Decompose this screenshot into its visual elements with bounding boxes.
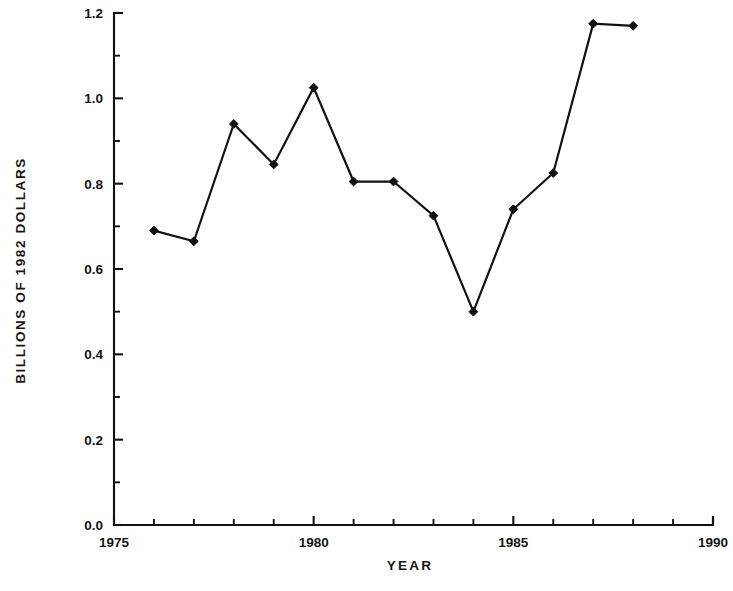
x-axis: 1975198019851990	[99, 516, 728, 550]
x-axis-line	[114, 517, 713, 525]
y-tick-label: 0.4	[84, 347, 103, 362]
y-tick-label: 0.2	[84, 433, 103, 448]
x-tick-label: 1990	[698, 535, 728, 550]
x-tick-label: 1980	[299, 535, 329, 550]
data-point-marker	[349, 177, 358, 186]
y-tick-label: 0.6	[84, 262, 103, 277]
x-tick-label-group: 1975198019851990	[99, 535, 728, 550]
series-marker-group	[150, 19, 638, 316]
series-line	[154, 24, 633, 312]
y-tick-label: 1.2	[84, 6, 103, 21]
data-series	[150, 19, 638, 316]
y-tick-label: 1.0	[84, 91, 103, 106]
x-tick-label: 1985	[498, 535, 529, 550]
line-chart-plot: 0.00.20.40.60.81.01.2 1975198019851990	[0, 0, 733, 591]
x-tick-group	[114, 516, 713, 525]
data-point-marker	[150, 226, 159, 235]
data-point-marker	[189, 237, 198, 246]
chart-figure: BILLIONS OF 1982 DOLLARS 0.00.20.40.60.8…	[0, 0, 733, 591]
y-axis: 0.00.20.40.60.81.01.2	[84, 6, 123, 533]
x-tick-label: 1975	[99, 535, 130, 550]
data-point-marker	[309, 83, 318, 92]
y-tick-label-group: 0.00.20.40.60.81.01.2	[84, 6, 103, 533]
y-tick-label: 0.8	[84, 177, 103, 192]
y-tick-group	[114, 13, 123, 525]
data-point-marker	[629, 21, 638, 30]
y-tick-label: 0.0	[84, 518, 103, 533]
data-point-marker	[469, 307, 478, 316]
data-point-marker	[589, 19, 598, 28]
